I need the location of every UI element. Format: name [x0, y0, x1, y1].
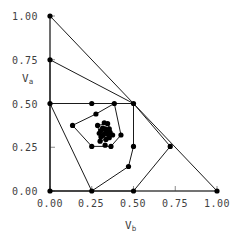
data-point — [47, 57, 52, 62]
data-point — [89, 144, 94, 149]
data-point — [214, 188, 219, 193]
y-tick-label-0: 0.00 — [0, 186, 38, 197]
chart-container: 1.00 0.75 0.50 0.25 0.00 0.00 0.25 0.50 … — [0, 0, 249, 240]
y-tick-label-4: 1.00 — [0, 11, 38, 22]
data-point — [47, 13, 52, 18]
data-point — [131, 188, 136, 193]
x-tick-label-1: 0.25 — [71, 198, 111, 209]
data-point — [47, 101, 52, 106]
data-point — [168, 144, 173, 149]
y-axis-title-main: V — [22, 72, 29, 85]
data-point — [131, 144, 136, 149]
data-point — [93, 111, 98, 116]
data-point — [89, 101, 94, 106]
data-point — [112, 101, 117, 106]
y-tick-label-3: 0.75 — [0, 55, 38, 66]
data-point — [131, 101, 136, 106]
data-point — [103, 137, 108, 142]
data-point — [103, 143, 108, 148]
x-tick-label-2: 0.50 — [113, 198, 153, 209]
data-point — [47, 188, 52, 193]
x-axis-title: Vb — [125, 219, 136, 232]
data-point — [70, 123, 75, 128]
data-point — [110, 132, 115, 137]
x-axis-title-subscript: b — [132, 224, 137, 233]
data-point — [126, 164, 131, 169]
y-tick-label-1: 0.25 — [0, 142, 38, 153]
data-point — [108, 144, 113, 149]
x-tick-label-3: 0.75 — [155, 198, 195, 209]
data-point — [89, 188, 94, 193]
data-point — [95, 123, 100, 128]
data-point — [98, 139, 103, 144]
x-axis-title-main: V — [125, 219, 132, 232]
y-tick-label-2: 0.50 — [0, 99, 38, 110]
data-point — [97, 131, 102, 136]
x-tick-label-4: 1.00 — [197, 198, 237, 209]
x-tick-label-0: 0.00 — [30, 198, 70, 209]
data-point — [118, 132, 123, 137]
y-axis-title-subscript: a — [29, 77, 34, 86]
data-point — [102, 120, 107, 125]
y-axis-title: Va — [22, 72, 33, 85]
